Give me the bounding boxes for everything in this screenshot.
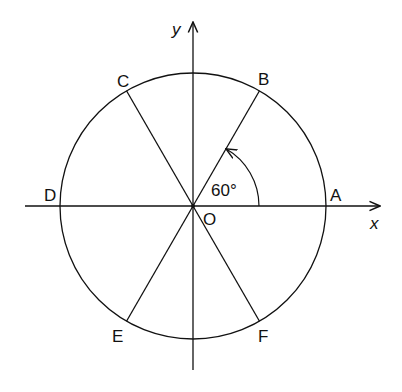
- y-axis-label: y: [171, 20, 182, 39]
- point-c-label: C: [117, 72, 129, 91]
- point-b-label: B: [258, 70, 269, 89]
- x-axis-label: x: [369, 214, 379, 233]
- circle-diagram: y x O A B C D E F 60°: [0, 0, 402, 392]
- origin-label: O: [203, 210, 216, 229]
- origin-dot: [191, 204, 195, 208]
- point-e-label: E: [112, 327, 123, 346]
- point-a-label: A: [330, 186, 342, 205]
- point-f-label: F: [258, 327, 268, 346]
- point-d-label: D: [44, 186, 56, 205]
- angle-label: 60°: [211, 181, 237, 200]
